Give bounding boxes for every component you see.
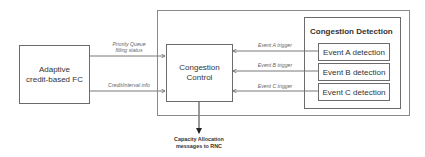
adaptive-fc-block: Adaptive credit-based FC bbox=[19, 45, 90, 104]
event-b-detection: Event B detection bbox=[318, 63, 390, 81]
congestion-control-block: Congestion Control bbox=[166, 44, 233, 102]
adaptive-fc-line1: Adaptive bbox=[39, 65, 70, 75]
adaptive-fc-line2: credit-based FC bbox=[26, 75, 83, 85]
event-a-trigger-label: Event A trigger bbox=[250, 42, 300, 48]
event-c-trigger-label: Event C trigger bbox=[250, 83, 300, 89]
congestion-detection-title: Congestion Detection bbox=[310, 27, 393, 36]
congestion-control-line2: Control bbox=[187, 73, 213, 83]
congestion-control-line1: Congestion bbox=[179, 63, 219, 73]
output-label: Capacity Allocation messages to RNC bbox=[164, 136, 234, 150]
event-a-detection: Event A detection bbox=[318, 43, 390, 61]
event-b-trigger-label: Event B trigger bbox=[250, 62, 300, 68]
priority-queue-line2: filling status bbox=[100, 47, 158, 53]
output-line2: messages to RNC bbox=[164, 143, 234, 150]
event-c-detection: Event C detection bbox=[318, 83, 390, 101]
output-line1: Capacity Allocation bbox=[164, 136, 234, 143]
credit-interval-label: Credit/interval info bbox=[98, 82, 160, 88]
priority-queue-label: Priority Queue filling status bbox=[100, 41, 158, 53]
